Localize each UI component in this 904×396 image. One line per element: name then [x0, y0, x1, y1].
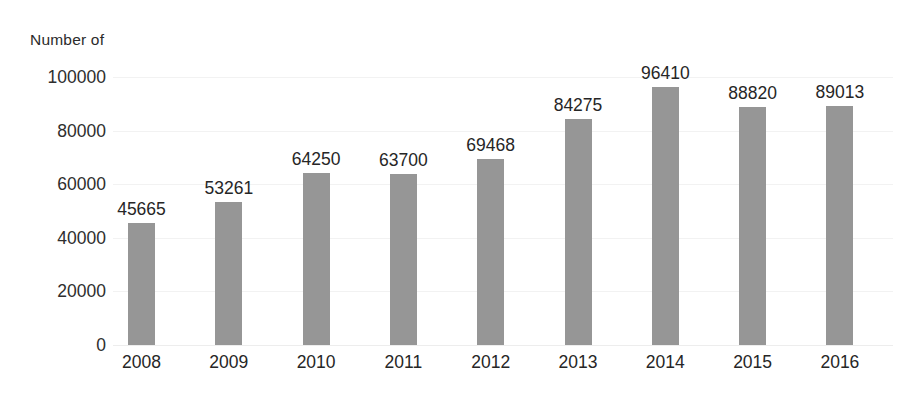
- x-axis-label-2010: 2010: [271, 352, 361, 373]
- data-label-2016: 89013: [795, 82, 885, 103]
- data-label-2015: 88820: [708, 83, 798, 104]
- y-axis-label-0: 0: [6, 335, 106, 356]
- y-axis-label-80000: 80000: [6, 120, 106, 141]
- y-axis-label-40000: 40000: [6, 227, 106, 248]
- bar-2010[interactable]: [303, 173, 330, 345]
- bar-2011[interactable]: [390, 174, 417, 345]
- bar-2013[interactable]: [565, 119, 592, 345]
- gridline-80000: [113, 131, 893, 132]
- data-label-2014: 96410: [620, 63, 710, 84]
- bar-2015[interactable]: [739, 107, 766, 345]
- y-axis-label-20000: 20000: [6, 281, 106, 302]
- y-axis-label-100000: 100000: [6, 67, 106, 88]
- x-axis-label-2016: 2016: [795, 352, 885, 373]
- gridline-100000: [113, 77, 893, 78]
- data-label-2012: 69468: [446, 135, 536, 156]
- bar-2016[interactable]: [826, 106, 853, 345]
- x-axis-label-2011: 2011: [358, 352, 448, 373]
- y-axis-label-60000: 60000: [6, 174, 106, 195]
- plot-area: 020000400006000080000100000 456655326164…: [0, 0, 904, 396]
- x-axis-label-2012: 2012: [446, 352, 536, 373]
- data-label-2009: 53261: [184, 178, 274, 199]
- bar-2008[interactable]: [128, 223, 155, 345]
- data-label-2011: 63700: [358, 150, 448, 171]
- data-label-2010: 64250: [271, 149, 361, 170]
- x-axis-label-2008: 2008: [97, 352, 187, 373]
- gridline-0: [113, 345, 893, 346]
- bar-2014[interactable]: [652, 87, 679, 345]
- data-label-2013: 84275: [533, 95, 623, 116]
- bar-2012[interactable]: [477, 159, 504, 345]
- data-label-2008: 45665: [97, 199, 187, 220]
- x-axis-label-2014: 2014: [620, 352, 710, 373]
- bar-2009[interactable]: [215, 202, 242, 345]
- x-axis-label-2013: 2013: [533, 352, 623, 373]
- x-axis-label-2009: 2009: [184, 352, 274, 373]
- bar-chart: Number of 020000400006000080000100000 45…: [0, 0, 904, 396]
- x-axis-label-2015: 2015: [708, 352, 798, 373]
